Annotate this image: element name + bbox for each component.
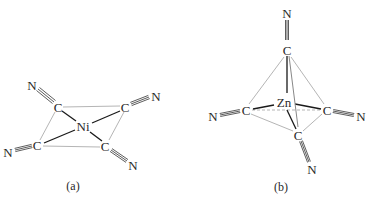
- zn-c-bonds: [253, 56, 321, 129]
- atom-c-top: C: [283, 43, 292, 58]
- atom-c-left: C: [242, 103, 251, 118]
- atom-n-bottom: N: [307, 162, 317, 177]
- panel-label-b: (b): [274, 180, 288, 194]
- atom-c-bottom: C: [294, 128, 303, 143]
- atom-c-bottom-left: C: [33, 138, 42, 153]
- panel-a-ni-complex: Ni C C C C N N N N (a): [3, 78, 161, 193]
- center-atom-zn: Zn: [277, 95, 292, 110]
- atom-c-bottom-right: C: [101, 139, 110, 154]
- panel-label-a: (a): [66, 179, 79, 193]
- atom-n-top-right: N: [151, 89, 161, 104]
- atom-n-top: N: [282, 6, 292, 21]
- panel-b-zn-complex: Zn C C C C N N N N (b): [208, 6, 366, 194]
- atom-c-right: C: [323, 103, 332, 118]
- atom-c-top-left: C: [54, 100, 63, 115]
- atom-c-top-right: C: [121, 100, 130, 115]
- atom-n-bottom-right: N: [128, 158, 138, 173]
- center-atom-ni: Ni: [77, 119, 90, 134]
- atom-n-top-left: N: [27, 78, 37, 93]
- atom-n-left: N: [208, 109, 218, 124]
- atom-n-right: N: [356, 109, 366, 124]
- atom-n-bottom-left: N: [3, 145, 13, 160]
- coordination-complexes-figure: Ni C C C C N N N N (a): [0, 0, 370, 204]
